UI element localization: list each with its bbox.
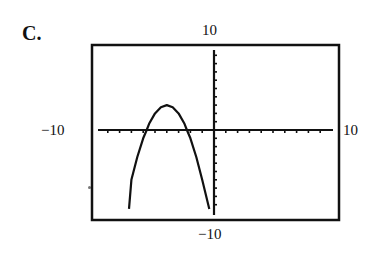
parabola-curve <box>129 105 209 209</box>
axes <box>98 50 333 215</box>
graph-window <box>0 0 368 254</box>
